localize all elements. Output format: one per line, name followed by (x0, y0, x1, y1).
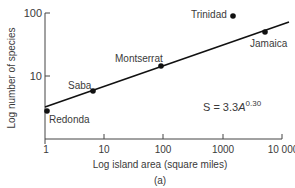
figure-caption: (a) (154, 175, 166, 186)
point-label: Redonda (49, 114, 90, 125)
regression-line (45, 22, 289, 107)
data-point-montserrat (158, 63, 164, 69)
x-tick-label: 1 (43, 144, 49, 155)
point-label: Jamaica (250, 38, 288, 49)
x-tick-label: 10 (98, 144, 110, 155)
data-point-redonda (44, 108, 50, 114)
point-label: Montserrat (115, 53, 163, 64)
point-label: Trinidad (191, 9, 227, 20)
y-tick-label: 10 (30, 70, 42, 82)
data-point-trinidad (230, 13, 236, 19)
y-axis-label: Log number of species (6, 27, 17, 128)
x-tick-label: 100 (155, 144, 172, 155)
x-tick-label: 10 000 (268, 144, 295, 155)
point-label: Saba (68, 80, 92, 91)
x-tick-label: 1000 (212, 144, 235, 155)
species-area-chart: 100 10 1 10 100 1000 10 000 Log number o… (0, 0, 295, 188)
x-axis-label: Log island area (square miles) (93, 159, 228, 170)
y-tick-label: 100 (24, 7, 42, 19)
equation-annotation: S = 3.3A0.30 (203, 99, 262, 113)
data-point-jamaica (262, 29, 268, 35)
